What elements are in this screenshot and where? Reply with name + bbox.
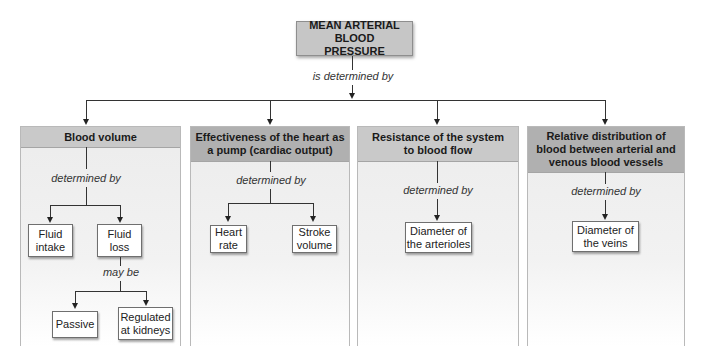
connector-label: determined by — [236, 174, 306, 186]
connector — [120, 281, 121, 291]
connector — [605, 200, 606, 215]
node-diameter-of-veins: Diameter of the veins — [572, 221, 639, 252]
arrow-icon — [310, 216, 316, 222]
node-regulated-at-kidneys: Regulated at kidneys — [118, 307, 173, 340]
panel-header: Blood volume — [21, 127, 180, 148]
panel-header-label: Resistance of the system to blood flow — [368, 131, 508, 157]
node-passive: Passive — [52, 311, 98, 338]
connector-drop-1 — [86, 100, 87, 120]
arrow-icon — [117, 217, 123, 223]
arrow-icon — [434, 215, 440, 221]
connector-label: determined by — [403, 184, 473, 196]
connector — [437, 199, 438, 216]
node-label: Regulated at kidneys — [120, 311, 172, 337]
connector-branch — [228, 203, 314, 204]
node-label: Diameter of the veins — [576, 224, 636, 250]
panel-header: Relative distribution of blood between a… — [528, 127, 684, 173]
arrow-icon — [225, 216, 231, 222]
top-connector-label: is determined by — [313, 70, 394, 82]
node-heart-rate: Heart rate — [210, 225, 247, 253]
connector — [120, 257, 121, 266]
connector-branch — [75, 291, 147, 292]
connector — [228, 203, 229, 217]
connector-root-down — [352, 56, 353, 70]
connector — [313, 203, 314, 217]
connector-drop-3 — [437, 100, 438, 120]
node-label: Passive — [56, 318, 95, 331]
arrow-icon — [602, 119, 608, 125]
node-label: Fluid intake — [34, 228, 68, 254]
arrow-icon — [83, 119, 89, 125]
arrow-icon — [349, 93, 355, 99]
connector-distribution-bar — [86, 100, 606, 101]
panel-header-label: Blood volume — [64, 131, 137, 144]
arrow-icon — [47, 217, 53, 223]
arrow-icon — [434, 119, 440, 125]
node-diameter-of-arterioles: Diameter of the arterioles — [405, 222, 472, 253]
arrow-icon — [267, 119, 273, 125]
node-fluid-intake: Fluid intake — [28, 224, 73, 257]
arrow-icon — [602, 214, 608, 220]
node-label: Stroke volume — [295, 226, 335, 252]
connector — [437, 161, 438, 183]
connector — [270, 161, 271, 172]
panel-header-label: Effectiveness of the heart as a pump (ca… — [195, 131, 345, 157]
connector-label: determined by — [51, 172, 121, 184]
node-label: Fluid loss — [105, 228, 135, 254]
arrow-icon — [143, 300, 149, 306]
arrow-icon — [72, 303, 78, 309]
panel-header-label: Relative distribution of blood between a… — [532, 130, 680, 169]
node-label: Diameter of the arterioles — [407, 225, 471, 251]
connector-label: determined by — [571, 185, 641, 197]
connector — [86, 147, 87, 169]
panel-header: Resistance of the system to blood flow — [358, 127, 518, 162]
node-stroke-volume: Stroke volume — [292, 225, 337, 253]
panel-header: Effectiveness of the heart as a pump (ca… — [191, 127, 349, 162]
root-node-label: MEAN ARTERIAL BLOOD PRESSURE — [307, 19, 402, 58]
connector-drop-4 — [605, 100, 606, 120]
connector — [86, 187, 87, 205]
connector — [605, 172, 606, 184]
connector — [270, 189, 271, 203]
sub-connector-label: may be — [103, 266, 139, 278]
connector-drop-2 — [270, 100, 271, 120]
connector-branch — [50, 205, 121, 206]
node-fluid-loss: Fluid loss — [97, 224, 142, 257]
root-node-mean-arterial-pressure: MEAN ARTERIAL BLOOD PRESSURE — [296, 21, 413, 56]
node-label: Heart rate — [214, 226, 244, 252]
